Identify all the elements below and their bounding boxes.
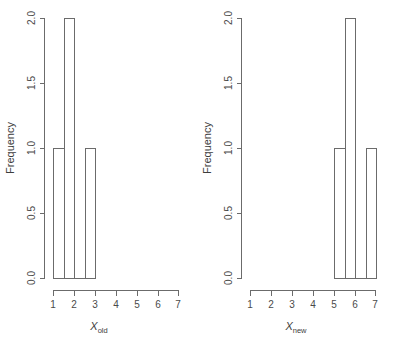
- histogram-bar: [366, 149, 377, 279]
- histogram-bar: [64, 19, 75, 279]
- x-tick-label-3: 4: [310, 299, 316, 310]
- y-tick-label-1: 0.5: [26, 206, 37, 220]
- y-axis-right: 0.0 0.5 1.0 1.5 2.0: [223, 11, 242, 285]
- x-axis-title: Xnew: [284, 320, 307, 335]
- x-tick-label-6: 7: [372, 299, 378, 310]
- histogram-bar: [335, 149, 346, 279]
- histogram-figure: 0.0 0.5 1.0 1.5 2.0 Frequency 1 2 3: [0, 0, 393, 339]
- histogram-bar: [345, 19, 356, 279]
- x-tick-label-6: 7: [175, 299, 181, 310]
- x-tick-label-0: 1: [247, 299, 253, 310]
- x-axis-title-sub: old: [98, 326, 108, 335]
- histogram-panel-x-new: 0.0 0.5 1.0 1.5 2.0 Frequency 1 2 3 4: [197, 0, 393, 339]
- histogram-bar: [54, 149, 65, 279]
- y-tick-label-3: 1.5: [223, 76, 234, 90]
- y-axis-title: Frequency: [4, 122, 16, 174]
- y-tick-label-3: 1.5: [26, 76, 37, 90]
- y-tick-label-4: 2.0: [26, 11, 37, 25]
- x-axis-title: Xold: [89, 320, 107, 335]
- y-axis-left: 0.0 0.5 1.0 1.5 2.0: [26, 11, 45, 285]
- y-tick-label-2: 1.0: [223, 141, 234, 155]
- y-tick-label-0: 0.0: [223, 271, 234, 285]
- histogram-bars-right: [335, 19, 377, 279]
- x-axis-left: 1 2 3 4 5 6 7: [50, 291, 181, 311]
- y-tick-label-2: 1.0: [26, 141, 37, 155]
- y-tick-label-0: 0.0: [26, 271, 37, 285]
- x-tick-label-2: 3: [92, 299, 98, 310]
- x-tick-label-1: 2: [71, 299, 77, 310]
- x-tick-label-3: 4: [113, 299, 119, 310]
- histogram-bars-left: [54, 19, 96, 279]
- x-axis-right: 1 2 3 4 5 6 7: [247, 291, 378, 311]
- x-axis-title-sub: new: [293, 326, 307, 335]
- x-tick-label-4: 5: [134, 299, 140, 310]
- x-tick-label-1: 2: [268, 299, 274, 310]
- y-axis-title: Frequency: [201, 122, 213, 174]
- x-tick-label-5: 6: [155, 299, 161, 310]
- x-tick-label-2: 3: [289, 299, 295, 310]
- x-tick-label-4: 5: [331, 299, 337, 310]
- y-tick-label-4: 2.0: [223, 11, 234, 25]
- x-tick-label-5: 6: [352, 299, 358, 310]
- histogram-panel-x-old: 0.0 0.5 1.0 1.5 2.0 Frequency 1 2 3: [0, 0, 196, 339]
- y-tick-label-1: 0.5: [223, 206, 234, 220]
- x-tick-label-0: 1: [50, 299, 56, 310]
- histogram-bar: [85, 149, 96, 279]
